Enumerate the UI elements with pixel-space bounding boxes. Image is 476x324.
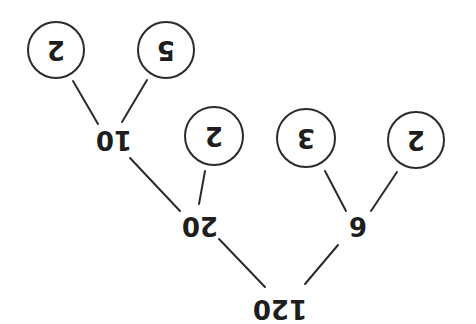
prime-leaf-node: 2: [28, 22, 84, 78]
tree-edge: [199, 171, 205, 204]
tree-edges: [73, 80, 397, 287]
tree-edge: [305, 245, 338, 284]
leaf-label: 2: [407, 125, 425, 155]
tree-edge: [130, 158, 180, 211]
tree-edge: [122, 80, 147, 122]
prime-leaf-node: 5: [138, 22, 194, 78]
composite-node-label: 20: [182, 211, 218, 241]
leaf-label: 2: [47, 35, 65, 65]
tree-edge: [219, 239, 265, 287]
composite-node-label: 6: [349, 211, 367, 241]
factor-tree-diagram: 25232 12020610: [0, 0, 476, 324]
root-node-label: 120: [253, 294, 307, 324]
prime-leaf-node: 2: [185, 107, 243, 165]
prime-leaf-node: 2: [388, 112, 444, 168]
tree-edge: [371, 172, 397, 211]
leaf-label: 3: [297, 123, 315, 153]
tree-edge: [73, 81, 98, 124]
tree-edge: [325, 171, 346, 211]
leaf-label: 5: [157, 35, 175, 65]
composite-node-label: 10: [96, 125, 132, 155]
leaf-label: 2: [205, 121, 223, 151]
prime-leaf-node: 3: [277, 109, 335, 167]
tree-leaves: 25232: [28, 22, 444, 168]
factor-tree-canvas: 25232 12020610: [0, 0, 476, 324]
